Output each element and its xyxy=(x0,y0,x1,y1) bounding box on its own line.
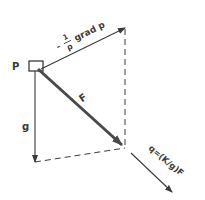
svg-text:ρ: ρ xyxy=(65,42,74,53)
svg-text:-: - xyxy=(54,41,62,52)
force-f-label: F xyxy=(77,91,89,104)
flux-q-label: q=(K/g)F xyxy=(147,143,186,178)
pressure-gradient-label: - 1 ρ grad p xyxy=(53,16,109,57)
force-vector-diagram: P - 1 ρ grad p F g q=(K/g)F xyxy=(0,0,205,200)
dashed-bottom-line xyxy=(35,148,125,162)
svg-text:1: 1 xyxy=(62,33,70,42)
point-p-label: P xyxy=(12,61,19,72)
gravity-g-label: g xyxy=(22,121,29,132)
point-p-box xyxy=(29,61,43,71)
force-f-arrow xyxy=(38,69,122,145)
